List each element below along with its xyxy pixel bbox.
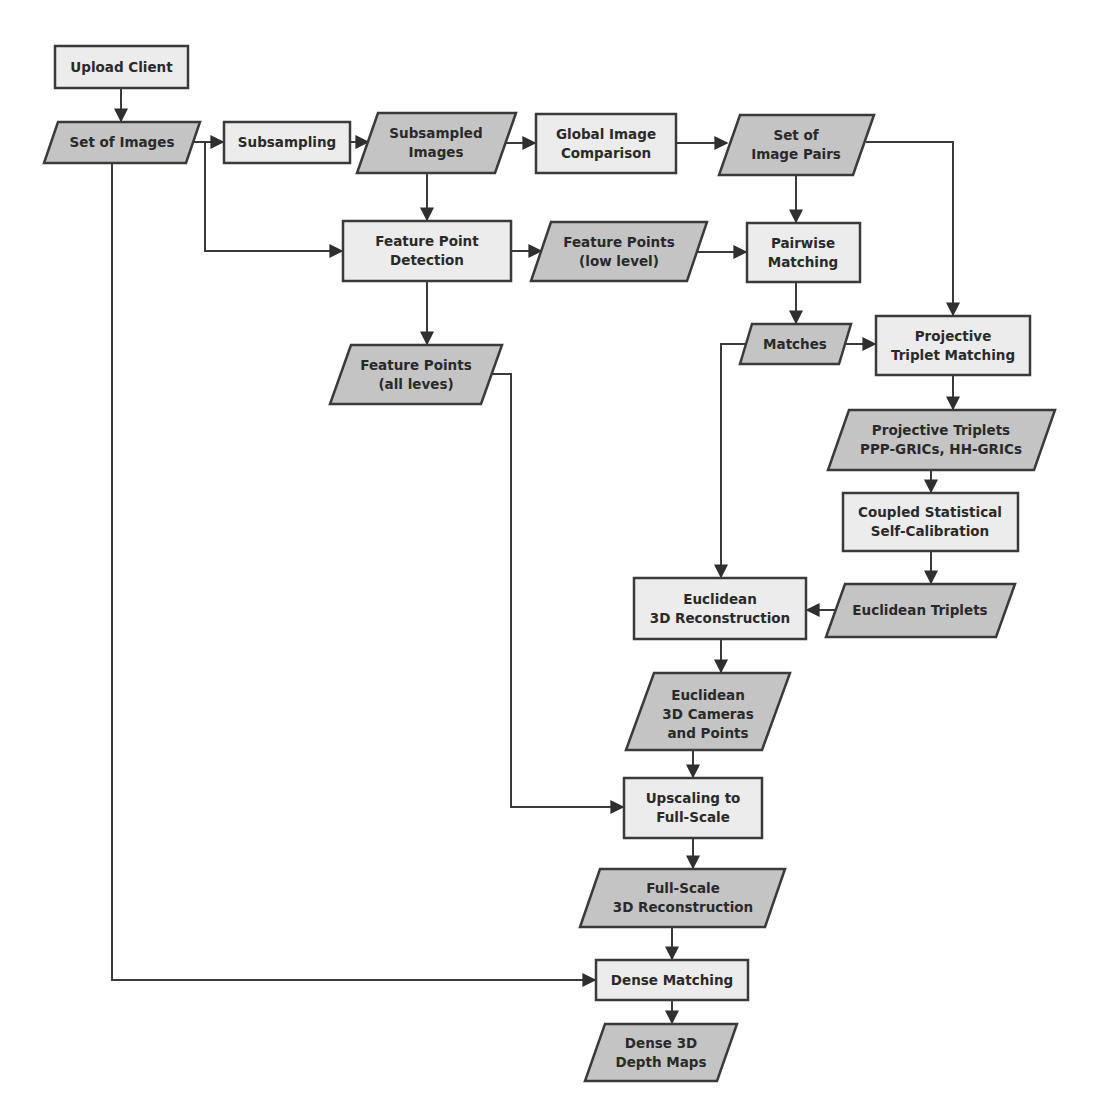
node-label: Euclidean Triplets bbox=[852, 602, 987, 618]
node-subsampling: Subsampling bbox=[224, 122, 350, 163]
node-feature-point-detection: Feature Point Detection bbox=[343, 221, 511, 281]
edge-pairs-to-projective-matching bbox=[866, 142, 953, 315]
node-feature-points-low-level: Feature Points (low level) bbox=[531, 222, 707, 281]
node-coupled-self-calibration: Coupled Statistical Self-Calibration bbox=[843, 493, 1018, 551]
node-label: Detection bbox=[390, 252, 464, 268]
node-label: Euclidean bbox=[683, 591, 757, 607]
node-label: (all leves) bbox=[378, 376, 453, 392]
node-label: Triplet Matching bbox=[891, 347, 1015, 363]
node-label: Set of bbox=[773, 127, 818, 143]
node-label: PPP-GRICs, HH-GRICs bbox=[860, 441, 1022, 457]
node-label: Set of Images bbox=[70, 134, 175, 150]
node-set-of-image-pairs: Set of Image Pairs bbox=[719, 115, 874, 175]
node-dense-matching: Dense Matching bbox=[596, 960, 748, 1000]
node-projective-triplets: Projective Triplets PPP-GRICs, HH-GRICs bbox=[828, 410, 1055, 470]
node-label: Pairwise bbox=[771, 235, 835, 251]
node-label: Full-Scale bbox=[646, 880, 720, 896]
node-label: Self-Calibration bbox=[871, 523, 989, 539]
edge-matches-to-euclidean-reconstruction bbox=[721, 344, 746, 577]
node-projective-triplet-matching: Projective Triplet Matching bbox=[876, 316, 1030, 375]
node-pairwise-matching: Pairwise Matching bbox=[747, 223, 860, 282]
node-label: Subsampling bbox=[238, 134, 336, 150]
node-label: Full-Scale bbox=[656, 809, 730, 825]
node-label: (low level) bbox=[579, 253, 659, 269]
node-label: Matching bbox=[768, 254, 839, 270]
edge-set-to-dense-matching bbox=[112, 163, 595, 980]
node-label: Projective Triplets bbox=[872, 422, 1010, 438]
node-label: 3D Cameras bbox=[662, 706, 753, 722]
node-label: Dense 3D bbox=[625, 1035, 697, 1051]
node-feature-points-all-levels: Feature Points (all leves) bbox=[330, 345, 502, 404]
node-euclidean-triplets: Euclidean Triplets bbox=[826, 584, 1015, 637]
node-label: Coupled Statistical bbox=[858, 504, 1002, 520]
node-dense-depth-maps: Dense 3D Depth Maps bbox=[585, 1024, 737, 1081]
node-label: Matches bbox=[763, 336, 827, 352]
node-upload-client: Upload Client bbox=[55, 46, 188, 88]
node-label: Comparison bbox=[561, 145, 651, 161]
node-label: and Points bbox=[668, 725, 749, 741]
node-label: Subsampled bbox=[389, 125, 482, 141]
node-matches: Matches bbox=[740, 324, 851, 364]
node-global-image-comparison: Global Image Comparison bbox=[536, 114, 676, 173]
node-label: 3D Reconstruction bbox=[650, 610, 790, 626]
node-subsampled-images: Subsampled Images bbox=[357, 113, 516, 173]
node-label: Feature Point bbox=[375, 233, 479, 249]
node-label: Images bbox=[408, 144, 463, 160]
node-label: Dense Matching bbox=[611, 972, 733, 988]
node-label: Global Image bbox=[556, 126, 656, 142]
node-label: Image Pairs bbox=[751, 146, 841, 162]
pipeline-diagram: Upload Client Set of Images Subsampling … bbox=[0, 0, 1098, 1119]
edge-all-levels-to-upscaling bbox=[466, 374, 623, 807]
node-euclidean-3d-reconstruction: Euclidean 3D Reconstruction bbox=[634, 578, 806, 639]
node-euclidean-3d-cameras: Euclidean 3D Cameras and Points bbox=[626, 673, 790, 750]
node-label: Upload Client bbox=[70, 59, 173, 75]
node-label: Upscaling to bbox=[646, 790, 741, 806]
node-label: Euclidean bbox=[671, 687, 745, 703]
node-upscaling: Upscaling to Full-Scale bbox=[624, 778, 762, 838]
node-label: Projective bbox=[915, 328, 992, 344]
node-label: Feature Points bbox=[563, 234, 674, 250]
node-label: Feature Points bbox=[360, 357, 471, 373]
node-label: Depth Maps bbox=[615, 1054, 706, 1070]
node-full-scale-reconstruction: Full-Scale 3D Reconstruction bbox=[580, 869, 785, 927]
node-label: 3D Reconstruction bbox=[613, 899, 753, 915]
node-set-of-images: Set of Images bbox=[44, 122, 200, 163]
